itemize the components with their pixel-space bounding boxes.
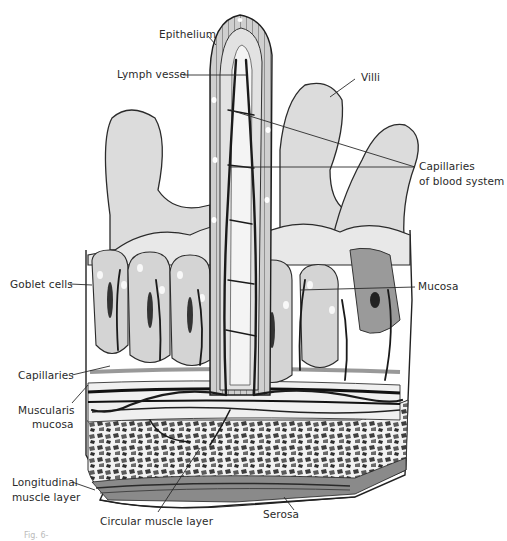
label-lymph-vessel: Lymph vessel	[117, 68, 189, 80]
label-muscularis-line2: mucosa	[32, 418, 74, 430]
label-muscularis-line1: Muscularis	[18, 404, 75, 416]
label-circular-muscle: Circular muscle layer	[100, 515, 214, 527]
label-capillaries-blood-line1: Capillaries	[419, 160, 475, 172]
central-villus	[210, 15, 272, 395]
label-longitudinal-line1: Longitudinal	[12, 476, 78, 488]
label-villi: Villi	[361, 71, 380, 83]
leader-villi	[330, 79, 355, 97]
label-capillaries-blood-line2: of blood system	[419, 175, 504, 187]
label-serosa: Serosa	[263, 508, 299, 520]
figure-caption-fragment: Fig. 6-	[24, 531, 48, 540]
intestinal-wall-diagram: Epithelium Lymph vessel Villi Capillarie…	[0, 0, 507, 541]
label-mucosa: Mucosa	[418, 280, 458, 292]
label-goblet-cells: Goblet cells	[10, 278, 73, 290]
label-longitudinal-line2: muscle layer	[12, 491, 81, 503]
leader-goblet-cells	[70, 284, 92, 285]
label-capillaries: Capillaries	[18, 369, 74, 381]
label-epithelium: Epithelium	[159, 28, 216, 40]
